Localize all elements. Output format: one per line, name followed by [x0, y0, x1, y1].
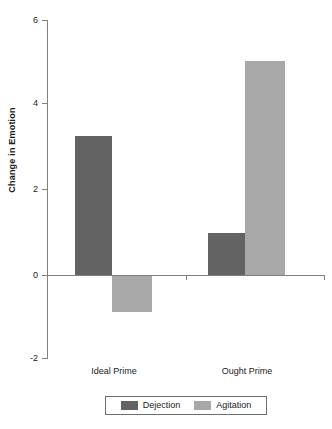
y-tick-mark-6	[42, 20, 48, 21]
y-tick-mark-2	[42, 189, 48, 190]
legend-entry-agitation: Agitation	[194, 401, 251, 410]
y-tick-label-6: 6	[0, 16, 38, 25]
y-tick-label-minus2: -2	[0, 354, 38, 363]
y-tick-mark-4	[42, 103, 48, 104]
bar-ideal-prime-dejection	[75, 136, 112, 275]
legend: Dejection Agitation	[105, 396, 267, 415]
x-category-label-ideal-prime: Ideal Prime	[68, 366, 160, 376]
bar-ought-prime-agitation	[245, 61, 285, 275]
bar-ought-prime-dejection	[208, 233, 245, 275]
legend-label-agitation: Agitation	[216, 401, 251, 410]
legend-entry-dejection: Dejection	[121, 401, 181, 410]
y-tick-mark-0	[42, 275, 48, 276]
legend-swatch-dejection	[121, 401, 138, 410]
y-tick-label-4: 4	[0, 99, 38, 108]
y-tick-label-0: 0	[0, 271, 38, 280]
bar-chart: Change in Emotion 6 4 2 0 -2 Ideal Prime…	[0, 0, 332, 429]
y-tick-mark-minus2	[42, 358, 48, 359]
x-axis-group-divider-tick	[186, 275, 187, 280]
legend-label-dejection: Dejection	[143, 401, 181, 410]
x-category-label-ought-prime: Ought Prime	[200, 366, 294, 376]
legend-swatch-agitation	[194, 401, 211, 410]
y-tick-label-2: 2	[0, 185, 38, 194]
bar-ideal-prime-agitation	[112, 276, 152, 312]
x-axis-end-tick	[324, 275, 325, 280]
